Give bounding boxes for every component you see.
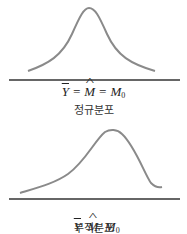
- normal-curve: [28, 8, 155, 71]
- median-symbol: M: [84, 84, 95, 100]
- skewed-caption: 부적분포: [0, 219, 187, 234]
- distribution-curves: [0, 0, 187, 234]
- mode-symbol: M: [110, 84, 121, 99]
- skewed-curve: [20, 130, 162, 193]
- normal-equation: Y = M = M0: [0, 84, 187, 100]
- mean-symbol: Y: [62, 84, 69, 99]
- normal-caption: 정규분포: [0, 101, 187, 117]
